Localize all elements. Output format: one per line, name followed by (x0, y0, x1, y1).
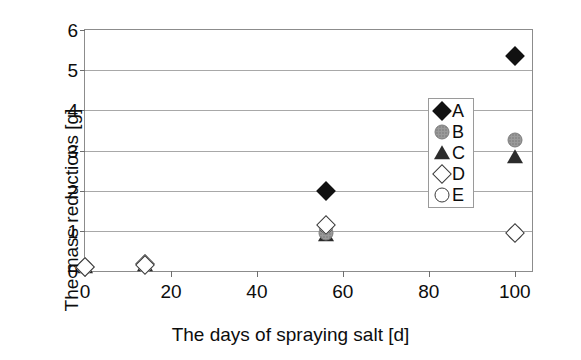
y-axis-tick-label: 6 (67, 21, 78, 40)
legend-marker-B (432, 123, 451, 142)
legend-marker-C (432, 143, 451, 162)
data-point-B-14 (138, 257, 153, 272)
legend-label-B: B (452, 123, 464, 141)
legend-filled-diamond-icon (432, 101, 452, 121)
y-axis-tick-label: 5 (67, 61, 78, 80)
legend-gray-dotted-circle-icon (434, 125, 449, 140)
legend-open-circle-icon (434, 187, 449, 202)
data-point-E-100 (507, 225, 522, 240)
legend-label-C: C (452, 144, 465, 162)
legend-item-B: B (429, 122, 473, 142)
y-gridline (85, 231, 532, 232)
scatter-chart-figure: 0123456020406080100 The days of spraying… (0, 0, 581, 360)
data-point-D-100 (505, 223, 525, 243)
legend-item-A: A (429, 101, 473, 121)
data-point-B-56 (318, 225, 333, 240)
data-point-C-14 (137, 257, 153, 271)
legend-item-C: C (429, 143, 473, 163)
x-axis-tick (257, 271, 258, 277)
x-axis-tick-label: 100 (499, 282, 531, 301)
legend-open-diamond-icon (432, 164, 452, 184)
legend-marker-D (432, 164, 451, 183)
legend-item-E: E (429, 185, 473, 205)
y-axis-tick (80, 70, 85, 71)
legend-label-E: E (452, 186, 464, 204)
chart-legend: ABCDE (428, 98, 474, 208)
x-axis-tick (515, 271, 516, 277)
legend-label-A: A (452, 102, 464, 120)
data-point-E-14 (138, 257, 153, 272)
x-axis-tick (171, 271, 172, 277)
data-point-B-100 (507, 133, 522, 148)
legend-marker-A (432, 102, 451, 121)
x-axis-tick-label: 40 (246, 282, 267, 301)
y-gridline (85, 70, 532, 71)
legend-label-D: D (452, 165, 465, 183)
x-axis-tick (85, 271, 86, 277)
data-point-D-14 (135, 255, 155, 275)
y-axis-tick (80, 30, 85, 31)
x-axis-title: The days of spraying salt [d] (0, 325, 581, 344)
legend-item-D: D (429, 164, 473, 184)
y-axis-title-text: The mass reductions [g] (62, 90, 81, 330)
data-point-A-100 (505, 46, 525, 66)
legend-filled-triangle-icon (434, 145, 450, 159)
x-axis-tick-label: 60 (332, 282, 353, 301)
x-axis-tick-label: 20 (160, 282, 181, 301)
x-axis-tick (429, 271, 430, 277)
x-axis-tick-label: 80 (418, 282, 439, 301)
x-axis-tick (343, 271, 344, 277)
y-axis-title: The mass reductions [g] (62, 90, 81, 210)
legend-marker-E (432, 185, 451, 204)
data-point-A-14 (135, 254, 155, 274)
data-point-C-56 (318, 227, 334, 241)
